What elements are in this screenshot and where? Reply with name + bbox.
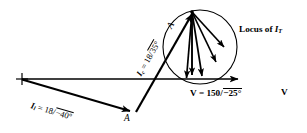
locus-subscript: T	[278, 27, 282, 34]
il-point-label: A	[124, 114, 130, 123]
phasor-diagram-canvas: Il = 18/−40° A Ic = 18/35° A Locus of IT…	[0, 0, 307, 133]
locus-prefix: Locus of	[239, 24, 272, 34]
voltage-label: V = 150/−25°	[190, 88, 242, 98]
voltage-symbol: V	[190, 88, 197, 98]
voltage-magnitude: 150	[206, 88, 220, 98]
voltage-equals: =	[199, 88, 204, 98]
apex-node	[190, 10, 194, 14]
it-fan-vectors	[187, 12, 225, 78]
voltage-angle: −25°	[223, 88, 242, 98]
voltage-unit-label: V	[281, 88, 288, 97]
locus-label: Locus of IT	[239, 25, 282, 35]
